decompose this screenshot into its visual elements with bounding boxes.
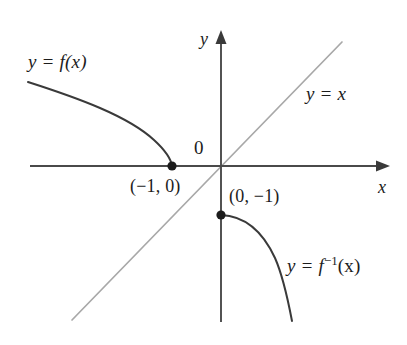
x-axis-arrowhead-icon: [376, 161, 390, 172]
inverse-curve-label: y = f−1(x): [287, 255, 361, 275]
x-axis-label: x: [378, 178, 386, 196]
inverse-function-graph-figure: y x 0 y = f(x) y = x y = f−1(x) (−1, 0) …: [0, 0, 407, 345]
identity-line-label: y = x: [306, 84, 346, 103]
function-curve-label: y = f(x): [28, 52, 87, 71]
inverse-curve-label-suffix: (x): [338, 255, 361, 276]
inverse-function-curve: [221, 215, 292, 321]
identity-line-y-equals-x: [72, 42, 342, 320]
point-label-0-minus1: (0, −1): [229, 187, 280, 205]
point-marker-minus1-0: [167, 161, 176, 170]
y-axis-label: y: [200, 30, 208, 48]
inverse-curve-label-exponent: −1: [324, 253, 338, 268]
point-marker-0-minus1: [216, 210, 225, 219]
point-label-minus1-0: (−1, 0): [130, 177, 181, 195]
y-axis-arrowhead-icon: [216, 30, 227, 44]
function-curve-f: [28, 82, 172, 166]
origin-label: 0: [194, 138, 204, 157]
inverse-curve-label-prefix: y = f: [287, 255, 324, 276]
